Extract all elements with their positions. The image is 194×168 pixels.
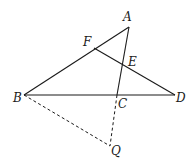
geometry-diagram: A F E B C D Q: [0, 0, 194, 168]
label-D: D: [175, 91, 186, 105]
segment-CQ: [110, 95, 117, 146]
label-B: B: [12, 91, 22, 105]
segment-BA: [24, 27, 129, 95]
segment-BQ: [24, 95, 110, 146]
label-E: E: [127, 55, 137, 69]
label-F: F: [82, 35, 92, 49]
label-C: C: [118, 97, 127, 111]
label-A: A: [122, 10, 132, 24]
label-Q: Q: [111, 144, 121, 158]
